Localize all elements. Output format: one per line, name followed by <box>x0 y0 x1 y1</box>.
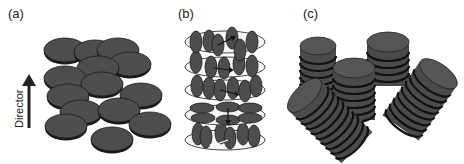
panel-a-discs <box>44 38 171 154</box>
director-label: Director <box>13 89 25 128</box>
figure-canvas <box>0 0 464 164</box>
panel-b-layers <box>185 27 265 150</box>
panel-c-columns <box>282 32 462 164</box>
